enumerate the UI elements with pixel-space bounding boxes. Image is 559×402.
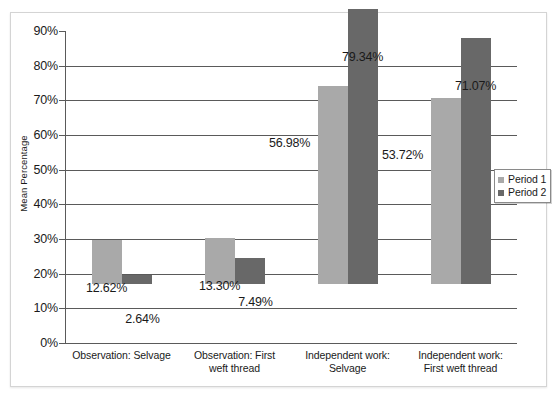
bar[interactable] bbox=[92, 240, 122, 284]
legend-swatch-icon bbox=[498, 190, 504, 196]
legend-item-period-2[interactable]: Period 2 bbox=[498, 186, 546, 199]
bar[interactable] bbox=[461, 38, 491, 284]
data-label: 79.34% bbox=[333, 51, 393, 64]
legend-item-period-1[interactable]: Period 1 bbox=[498, 173, 546, 186]
bar[interactable] bbox=[431, 98, 461, 284]
legend-swatch-icon bbox=[498, 177, 504, 183]
data-label: 53.72% bbox=[373, 149, 433, 162]
x-axis-category-label: Observation: Firstweft thread bbox=[178, 349, 291, 375]
x-axis-category-label: Independent work:First weft thread bbox=[404, 349, 517, 375]
data-label: 13.30% bbox=[190, 280, 250, 293]
data-label: 56.98% bbox=[260, 137, 320, 150]
x-axis-category-label: Independent work:Selvage bbox=[291, 349, 404, 375]
figure-container: Mean Percentage 90%80%70%60%50%40%30%20%… bbox=[0, 0, 559, 402]
x-axis-category-label-line: First weft thread bbox=[404, 362, 517, 375]
data-label: 12.62% bbox=[77, 282, 137, 295]
plot-area: Mean Percentage 90%80%70%60%50%40%30%20%… bbox=[0, 0, 559, 402]
bar[interactable] bbox=[205, 238, 235, 284]
x-axis-category-label-line: Independent work: bbox=[404, 349, 517, 362]
x-axis-category-label-line: weft thread bbox=[178, 362, 291, 375]
data-label: 7.49% bbox=[226, 296, 286, 309]
x-axis-category-label-line: Selvage bbox=[291, 362, 404, 375]
bar[interactable] bbox=[318, 86, 348, 284]
data-label: 2.64% bbox=[113, 313, 173, 326]
legend-label: Period 2 bbox=[508, 187, 546, 198]
x-axis-category-label: Observation: Selvage bbox=[65, 349, 178, 362]
legend[interactable]: Period 1 Period 2 bbox=[494, 169, 551, 203]
x-axis-line bbox=[65, 343, 517, 344]
data-label: 71.07% bbox=[446, 80, 506, 93]
legend-label: Period 1 bbox=[508, 174, 546, 185]
x-axis-category-label-line: Independent work: bbox=[291, 349, 404, 362]
x-axis-category-label-line: Observation: First bbox=[178, 349, 291, 362]
x-axis-category-label-line: Observation: Selvage bbox=[65, 349, 178, 362]
